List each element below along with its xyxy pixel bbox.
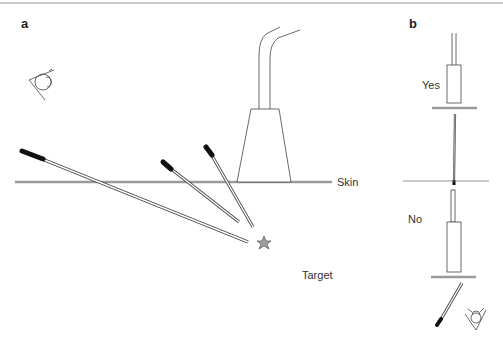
needle-long — [22, 151, 248, 242]
eye-icon — [29, 69, 54, 100]
no-scenario: No — [408, 190, 486, 330]
panel-b: b Yes No — [403, 16, 489, 330]
no-probe — [447, 222, 461, 272]
yes-probe — [447, 65, 461, 103]
figure-canvas: a Skin — [0, 0, 503, 358]
target-star-icon — [257, 236, 271, 249]
target-label: Target — [302, 269, 333, 281]
probe — [237, 27, 300, 182]
no-probe-stem — [451, 190, 455, 222]
yes-scenario: Yes — [422, 33, 477, 185]
panel-b-label: b — [409, 16, 417, 31]
eye-icon-b — [465, 308, 486, 330]
panel-a: a Skin — [15, 16, 358, 281]
no-label: No — [408, 213, 422, 225]
skin-label: Skin — [337, 176, 358, 188]
panel-a-label: a — [21, 16, 29, 31]
yes-label: Yes — [422, 79, 440, 91]
